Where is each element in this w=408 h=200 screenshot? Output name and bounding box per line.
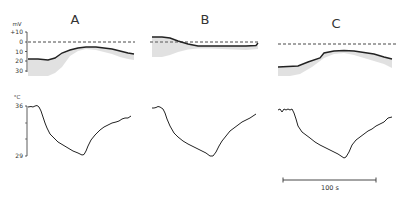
temperature-tick-29: 29 [15, 152, 23, 159]
panel-label-c: C [331, 16, 340, 31]
time-scale-bar: 100 s [283, 178, 376, 193]
voltage-tick-20: 20 [15, 57, 23, 64]
temperature-axis: °C 36 29 [14, 94, 27, 159]
panel-a-voltage-trace [28, 42, 135, 76]
panel-b-temperature-trace [152, 107, 256, 157]
temperature-unit-label: °C [14, 94, 21, 100]
panel-label-b: B [201, 12, 210, 27]
temperature-tick-36: 36 [15, 102, 23, 109]
voltage-tick-10: 10 [15, 48, 23, 55]
panel-c-voltage-trace [278, 44, 396, 76]
voltage-unit-label: mV [12, 21, 21, 27]
voltage-tick-30: 30 [15, 67, 23, 74]
time-scale-label: 100 s [321, 184, 339, 192]
panel-a-temperature-trace [28, 106, 131, 156]
panel-label-a: A [71, 12, 80, 27]
figure-canvas: A B C mV +10 0 10 20 30 °C 36 29 [0, 0, 408, 200]
panel-c-temperature-trace [278, 109, 392, 158]
voltage-tick-0: 0 [19, 38, 23, 45]
panel-b-voltage-trace [150, 37, 260, 57]
voltage-axis: mV +10 0 10 20 30 [10, 21, 27, 74]
voltage-tick-plus10: +10 [10, 28, 23, 35]
